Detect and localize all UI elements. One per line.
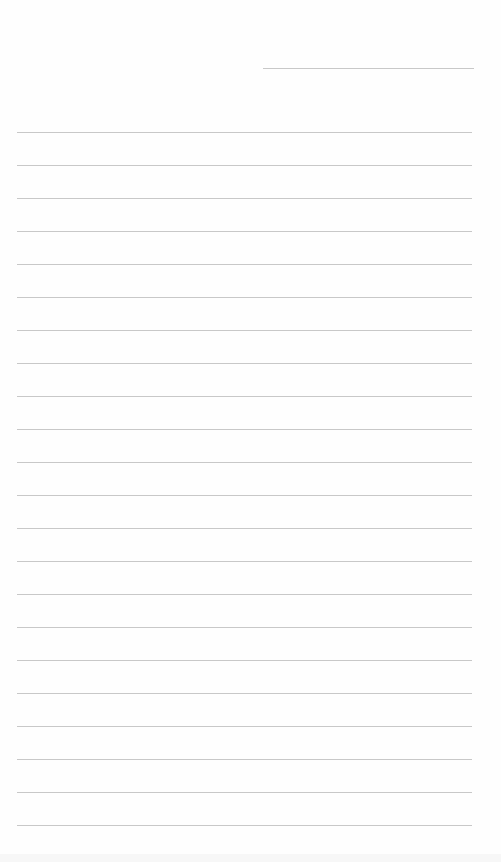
ruled-line	[17, 231, 472, 232]
ruled-line	[17, 165, 472, 166]
ruled-line	[17, 330, 472, 331]
ruled-line	[17, 660, 472, 661]
ruled-line	[17, 825, 472, 826]
ruled-line	[17, 264, 472, 265]
ruled-line	[17, 429, 472, 430]
ruled-line	[17, 627, 472, 628]
ruled-line	[17, 132, 472, 133]
ruled-paper-page	[0, 0, 501, 862]
ruled-line	[17, 693, 472, 694]
ruled-line	[17, 363, 472, 364]
ruled-line	[17, 759, 472, 760]
ruled-line	[17, 726, 472, 727]
ruled-line	[17, 462, 472, 463]
page-bottom-edge	[0, 854, 501, 862]
ruled-line	[17, 297, 472, 298]
ruled-line	[17, 198, 472, 199]
header-name-line	[263, 68, 474, 69]
ruled-line	[17, 561, 472, 562]
ruled-line	[17, 396, 472, 397]
ruled-line	[17, 792, 472, 793]
ruled-line	[17, 594, 472, 595]
ruled-line	[17, 495, 472, 496]
ruled-line	[17, 528, 472, 529]
